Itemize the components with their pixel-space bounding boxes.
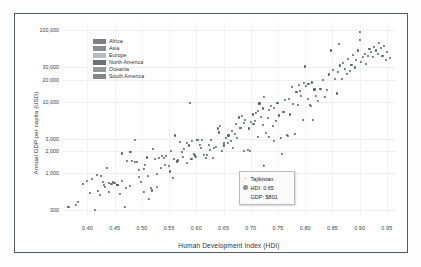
scatter-point[interactable] xyxy=(227,134,229,136)
scatter-point[interactable] xyxy=(200,147,202,149)
scatter-point[interactable] xyxy=(346,73,348,75)
scatter-point[interactable] xyxy=(201,139,203,141)
scatter-point[interactable] xyxy=(310,105,312,107)
scatter-point[interactable] xyxy=(188,144,190,146)
scatter-point[interactable] xyxy=(350,63,352,65)
scatter-point[interactable] xyxy=(305,85,307,87)
scatter-point[interactable] xyxy=(213,147,215,149)
scatter-point[interactable] xyxy=(302,119,304,121)
scatter-point[interactable] xyxy=(235,123,237,125)
scatter-point[interactable] xyxy=(291,86,293,88)
scatter-point[interactable] xyxy=(164,164,166,166)
scatter-point[interactable] xyxy=(240,115,242,117)
scatter-point[interactable] xyxy=(126,160,128,162)
scatter-point[interactable] xyxy=(262,124,264,126)
scatter-point[interactable] xyxy=(121,180,123,182)
scatter-point[interactable] xyxy=(218,131,220,133)
scatter-point[interactable] xyxy=(278,114,280,116)
scatter-point[interactable] xyxy=(288,98,290,100)
scatter-point[interactable] xyxy=(268,135,270,137)
scatter-point[interactable] xyxy=(146,156,148,158)
scatter-point[interactable] xyxy=(275,120,277,122)
scatter-point[interactable] xyxy=(363,53,365,55)
scatter-point[interactable] xyxy=(342,62,344,64)
scatter-point[interactable] xyxy=(268,109,270,111)
scatter-point[interactable] xyxy=(190,158,192,160)
scatter-point[interactable] xyxy=(196,139,198,141)
scatter-point[interactable] xyxy=(337,71,339,73)
scatter-point[interactable] xyxy=(368,48,370,50)
scatter-point[interactable] xyxy=(252,113,254,115)
scatter-point[interactable] xyxy=(347,58,349,60)
scatter-point[interactable] xyxy=(144,164,146,166)
scatter-point[interactable] xyxy=(181,151,183,153)
scatter-point[interactable] xyxy=(315,95,317,97)
scatter-point[interactable] xyxy=(231,130,233,132)
legend-item[interactable]: Africa xyxy=(93,38,144,44)
scatter-point[interactable] xyxy=(252,123,254,125)
scatter-point[interactable] xyxy=(163,157,165,159)
scatter-point[interactable] xyxy=(136,161,138,163)
scatter-point[interactable] xyxy=(375,49,377,51)
scatter-point[interactable] xyxy=(299,90,301,92)
scatter-point[interactable] xyxy=(258,102,260,104)
legend-item[interactable]: Oceania xyxy=(93,66,144,72)
scatter-point[interactable] xyxy=(212,157,214,159)
scatter-point[interactable] xyxy=(297,104,299,106)
scatter-point[interactable] xyxy=(152,148,154,150)
scatter-point[interactable] xyxy=(148,198,150,200)
scatter-point[interactable] xyxy=(267,117,269,119)
scatter-point[interactable] xyxy=(271,125,273,127)
scatter-point[interactable] xyxy=(287,135,289,137)
scatter-point[interactable] xyxy=(378,42,380,44)
legend-item[interactable]: South America xyxy=(93,73,144,79)
scatter-point[interactable] xyxy=(307,83,309,85)
scatter-point[interactable] xyxy=(223,144,225,146)
scatter-point[interactable] xyxy=(294,133,296,135)
scatter-point[interactable] xyxy=(324,96,326,98)
scatter-point[interactable] xyxy=(96,174,98,176)
scatter-point[interactable] xyxy=(281,153,283,155)
scatter-point[interactable] xyxy=(389,57,391,59)
scatter-point[interactable] xyxy=(265,132,267,134)
scatter-point[interactable] xyxy=(282,111,284,113)
scatter-point[interactable] xyxy=(365,63,367,65)
scatter-point[interactable] xyxy=(97,190,99,192)
scatter-point[interactable] xyxy=(116,183,118,185)
scatter-point[interactable] xyxy=(273,107,275,109)
legend-item[interactable]: Europe xyxy=(93,52,144,58)
scatter-point[interactable] xyxy=(160,167,162,169)
legend-item[interactable]: North America xyxy=(93,59,144,65)
scatter-point[interactable] xyxy=(295,91,297,93)
scatter-point[interactable] xyxy=(154,158,156,160)
scatter-point[interactable] xyxy=(179,140,181,142)
scatter-point[interactable] xyxy=(339,64,341,66)
legend-item[interactable]: Asia xyxy=(93,45,144,51)
scatter-point[interactable] xyxy=(243,122,245,124)
scatter-point[interactable] xyxy=(273,140,275,142)
scatter-point[interactable] xyxy=(219,125,221,127)
scatter-point[interactable] xyxy=(380,47,382,49)
scatter-point[interactable] xyxy=(311,81,313,83)
scatter-point[interactable] xyxy=(370,51,372,53)
scatter-point[interactable] xyxy=(270,105,272,107)
scatter-point[interactable] xyxy=(332,69,334,71)
scatter-point[interactable] xyxy=(367,55,369,57)
scatter-point[interactable] xyxy=(104,186,106,188)
scatter-point[interactable] xyxy=(227,142,229,144)
scatter-point[interactable] xyxy=(189,102,191,104)
scatter-point[interactable] xyxy=(99,194,101,196)
scatter-point[interactable] xyxy=(336,92,338,94)
scatter-point[interactable] xyxy=(239,127,241,129)
scatter-point[interactable] xyxy=(300,95,302,97)
scatter-point[interactable] xyxy=(134,139,136,141)
scatter-point[interactable] xyxy=(360,61,362,63)
scatter-point[interactable] xyxy=(138,176,140,178)
scatter-point[interactable] xyxy=(74,204,76,206)
scatter-point[interactable] xyxy=(208,144,210,146)
scatter-point[interactable] xyxy=(344,67,346,69)
scatter-point[interactable] xyxy=(182,156,184,158)
scatter-point[interactable] xyxy=(383,45,385,47)
scatter-point[interactable] xyxy=(199,144,201,146)
scatter-point[interactable] xyxy=(186,162,188,164)
